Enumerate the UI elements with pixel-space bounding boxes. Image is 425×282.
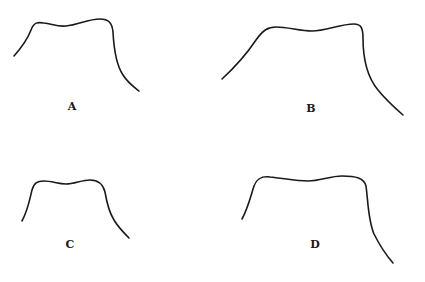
curve-a <box>14 19 139 91</box>
panel-label-c: C <box>66 239 75 250</box>
curve-c <box>22 180 129 238</box>
panel-label-d: D <box>310 239 320 250</box>
panel-label-a: A <box>68 101 77 112</box>
panel-label-b: B <box>306 103 315 114</box>
figure-four-panel-profiles: A B C D <box>0 0 425 282</box>
curves-canvas <box>0 0 425 282</box>
